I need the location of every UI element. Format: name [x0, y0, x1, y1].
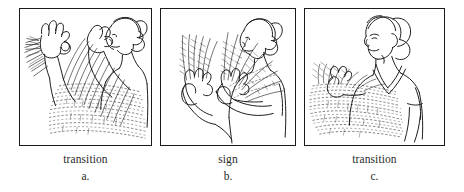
caption-b-letter: b.	[224, 169, 233, 183]
panel-c-illustration	[305, 9, 444, 145]
panel-a-illustration	[20, 9, 151, 145]
caption-row: transition a. sign b. transition c.	[19, 148, 445, 188]
figure-sign-language-motion-phases: transition a. sign b. transition c.	[0, 0, 464, 192]
caption-c: transition c.	[304, 148, 445, 188]
panel-row	[19, 8, 445, 146]
panel-b-illustration	[161, 9, 295, 145]
caption-c-phase: transition	[352, 152, 396, 166]
caption-a: transition a.	[19, 148, 152, 188]
caption-b-phase: sign	[218, 152, 238, 166]
panel-c-transition	[304, 8, 445, 146]
caption-c-letter: c.	[371, 169, 379, 183]
panel-b-sign	[160, 8, 296, 146]
caption-a-letter: a.	[82, 169, 90, 183]
caption-b: sign b.	[160, 148, 296, 188]
panel-a-transition	[19, 8, 152, 146]
caption-a-phase: transition	[63, 152, 107, 166]
